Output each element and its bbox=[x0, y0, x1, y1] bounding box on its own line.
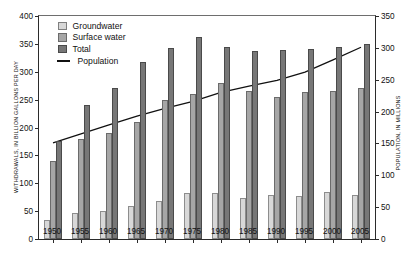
y-axis-right-tick-mark bbox=[375, 143, 379, 144]
y-axis-right-tick: 200 bbox=[381, 107, 395, 116]
bar-total-2005 bbox=[364, 44, 370, 239]
bar-total-1950 bbox=[56, 141, 62, 239]
y-axis-right-tick: 250 bbox=[381, 75, 395, 84]
x-axis-tick-1965: 1965 bbox=[127, 227, 145, 236]
bar-surface-water-1955 bbox=[78, 139, 84, 239]
y-axis-left-tick: 100 bbox=[19, 179, 33, 188]
withdrawals-population-chart: WITHDRAWALS, IN BILLION GALLONS PER DAY … bbox=[0, 0, 414, 271]
legend-label: Surface water bbox=[73, 32, 126, 42]
total-swatch bbox=[58, 45, 67, 54]
x-axis-tick-1955: 1955 bbox=[71, 227, 89, 236]
y-axis-right-tick-mark bbox=[375, 207, 379, 208]
y-axis-right-tick-mark bbox=[375, 80, 379, 81]
groundwater-swatch bbox=[58, 22, 67, 31]
y-axis-right-tick: 0 bbox=[381, 235, 386, 244]
y-axis-left-tick-mark bbox=[35, 100, 39, 101]
bar-total-1985 bbox=[252, 51, 258, 239]
legend-label: Groundwater bbox=[73, 21, 123, 31]
x-axis-tick-mark bbox=[221, 239, 222, 243]
y-axis-right-tick-mark bbox=[375, 239, 379, 240]
y-axis-right-tick-mark bbox=[375, 112, 379, 113]
x-axis-tick-mark bbox=[165, 239, 166, 243]
legend-item-surface-water: Surface water bbox=[58, 32, 126, 44]
x-axis-tick-1970: 1970 bbox=[155, 227, 173, 236]
x-axis-tick-2000: 2000 bbox=[323, 227, 341, 236]
y-axis-right-tick: 50 bbox=[381, 203, 390, 212]
bar-total-1975 bbox=[196, 37, 202, 239]
legend-item-groundwater: Groundwater bbox=[58, 20, 126, 32]
y-axis-left-tick-mark bbox=[35, 128, 39, 129]
y-axis-right-tick-mark bbox=[375, 48, 379, 49]
x-axis-tick-mark bbox=[277, 239, 278, 243]
y-axis-left-tick: 150 bbox=[19, 151, 33, 160]
y-axis-left-tick: 300 bbox=[19, 67, 33, 76]
population-line-swatch bbox=[58, 56, 67, 65]
y-axis-left-tick: 400 bbox=[19, 12, 33, 21]
legend-label: Population bbox=[78, 56, 119, 66]
y-axis-left-tick: 350 bbox=[19, 39, 33, 48]
y-axis-left-tick-mark bbox=[35, 239, 39, 240]
y-axis-left-tick-mark bbox=[35, 72, 39, 73]
x-axis-tick-mark bbox=[193, 239, 194, 243]
bar-total-1995 bbox=[308, 49, 314, 239]
x-axis-tick-mark bbox=[361, 239, 362, 243]
y-axis-left-tick-mark bbox=[35, 211, 39, 212]
x-axis-tick-1995: 1995 bbox=[295, 227, 313, 236]
x-axis-tick-1985: 1985 bbox=[239, 227, 257, 236]
y-axis-left-tick: 50 bbox=[24, 207, 33, 216]
bar-surface-water-1990 bbox=[274, 97, 280, 239]
bar-surface-water-1985 bbox=[246, 91, 252, 239]
x-axis-tick-mark bbox=[333, 239, 334, 243]
y-axis-right-tick: 150 bbox=[381, 139, 395, 148]
y-axis-left-tick-mark bbox=[35, 183, 39, 184]
y-axis-right-tick-mark bbox=[375, 175, 379, 176]
x-axis-tick-1975: 1975 bbox=[183, 227, 201, 236]
y-axis-left-tick-mark bbox=[35, 44, 39, 45]
y-axis-left-tick: 250 bbox=[19, 95, 33, 104]
x-axis-tick-mark bbox=[109, 239, 110, 243]
y-axis-right-tick: 350 bbox=[381, 12, 395, 21]
legend-item-population: Population bbox=[58, 55, 126, 67]
bar-surface-water-1975 bbox=[190, 94, 196, 239]
y-axis-right-tick: 100 bbox=[381, 171, 395, 180]
y-axis-left-tick-mark bbox=[35, 16, 39, 17]
x-axis-tick-1990: 1990 bbox=[267, 227, 285, 236]
bar-total-1955 bbox=[84, 105, 90, 239]
bar-surface-water-2005 bbox=[358, 88, 364, 239]
x-axis-tick-mark bbox=[249, 239, 250, 243]
y-axis-left-tick: 0 bbox=[28, 235, 33, 244]
x-axis-tick-mark bbox=[305, 239, 306, 243]
y-axis-left-tick-mark bbox=[35, 155, 39, 156]
bar-surface-water-1970 bbox=[162, 100, 168, 239]
y-axis-right-tick: 300 bbox=[381, 43, 395, 52]
y-axis-left-title: WITHDRAWALS, IN BILLION GALLONS PER DAY bbox=[13, 73, 19, 193]
bar-surface-water-1980 bbox=[218, 83, 224, 239]
surface-water-swatch bbox=[58, 33, 67, 42]
bar-surface-water-1960 bbox=[106, 133, 112, 239]
bar-total-1970 bbox=[168, 48, 174, 239]
x-axis-tick-mark bbox=[53, 239, 54, 243]
legend-item-total: Total bbox=[58, 43, 126, 55]
bar-surface-water-2000 bbox=[330, 91, 336, 239]
bar-total-2000 bbox=[336, 47, 342, 239]
bar-total-1990 bbox=[280, 50, 286, 239]
x-axis-tick-1980: 1980 bbox=[211, 227, 229, 236]
bar-total-1960 bbox=[112, 88, 118, 239]
y-axis-right-tick-mark bbox=[375, 16, 379, 17]
chart-legend: Groundwater Surface water Total Populati… bbox=[58, 20, 126, 66]
x-axis-tick-mark bbox=[137, 239, 138, 243]
y-axis-right-title: POPULATION, IN MILLIONS bbox=[395, 73, 401, 193]
y-axis-left-tick: 200 bbox=[19, 123, 33, 132]
x-axis-tick-mark bbox=[81, 239, 82, 243]
bar-surface-water-1995 bbox=[302, 92, 308, 239]
legend-label: Total bbox=[73, 44, 91, 54]
bar-total-1965 bbox=[140, 62, 146, 239]
x-axis-tick-1960: 1960 bbox=[99, 227, 117, 236]
x-axis-tick-2005: 2005 bbox=[351, 227, 369, 236]
x-axis-tick-1950: 1950 bbox=[43, 227, 61, 236]
bar-total-1980 bbox=[224, 47, 230, 239]
bar-surface-water-1965 bbox=[134, 122, 140, 239]
